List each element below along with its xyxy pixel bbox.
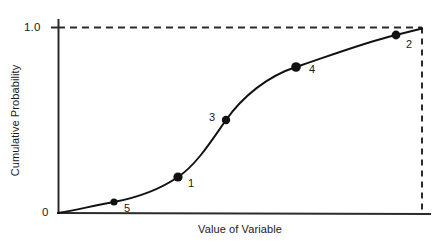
cumulative-probability-chart: 1.0 0 Cumulative Probability Value of Va… [0, 0, 440, 241]
chart-plot-area [0, 0, 440, 241]
data-point-2 [392, 31, 401, 40]
data-point-label-4: 4 [309, 64, 315, 75]
data-point-label-3: 3 [209, 112, 215, 123]
y-axis-tick-label-one: 1.0 [24, 22, 41, 34]
y-axis-tick-label-zero: 0 [42, 207, 48, 219]
data-point-5 [110, 198, 117, 205]
data-point-label-1: 1 [188, 178, 194, 189]
data-point-3 [222, 116, 230, 124]
y-axis-title: Cumulative Probability [10, 56, 21, 186]
data-point-label-2: 2 [406, 39, 412, 50]
cumulative-curve [58, 29, 422, 214]
x-axis-line [57, 213, 431, 214]
x-axis-title: Value of Variable [180, 224, 300, 235]
data-point-1 [173, 172, 182, 181]
data-point-4 [291, 62, 301, 72]
data-point-label-5: 5 [124, 203, 130, 214]
